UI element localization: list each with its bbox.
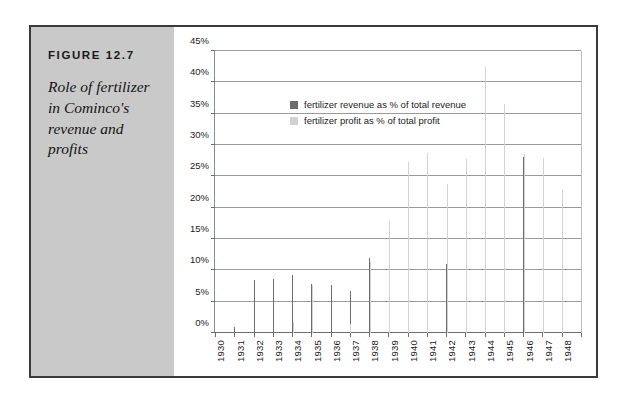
- x-axis-tick-mark: [446, 333, 447, 337]
- y-axis-tick-label: 10%: [190, 254, 209, 265]
- x-axis-tick-mark: [562, 333, 563, 337]
- x-axis-tick-mark: [581, 333, 582, 337]
- plot-area: 0%5%10%15%20%25%30%35%40%45% 19301931193…: [214, 51, 582, 333]
- x-axis-tick-label: 1933: [273, 340, 284, 362]
- x-axis-tick-label: 1947: [543, 340, 554, 362]
- legend-item-profit: fertilizer profit as % of total profit: [290, 115, 466, 126]
- x-axis-tick-mark: [427, 333, 428, 337]
- x-axis-tick-mark: [369, 333, 370, 337]
- bars-layer: 1930193119321933193419351936193719381939…: [215, 51, 581, 333]
- x-axis-tick-label: 1945: [504, 340, 515, 362]
- bar-group: 1935: [311, 51, 330, 333]
- bar-group: 1942: [446, 51, 465, 333]
- y-axis-tick-label: 25%: [190, 160, 209, 171]
- x-axis-tick-mark: [485, 333, 486, 337]
- legend-label-profit: fertilizer profit as % of total profit: [304, 115, 440, 126]
- bar-group: 1930: [215, 51, 234, 333]
- figure-screenshot: FIGURE 12.7 Role of fertilizer in Cominc…: [0, 0, 626, 403]
- x-axis-tick-label: 1936: [331, 340, 342, 362]
- bar-group: 1947: [542, 51, 561, 333]
- y-axis-tick-label: 15%: [190, 223, 209, 234]
- x-axis-tick-mark: [273, 333, 274, 337]
- x-axis-tick-mark: [234, 333, 235, 337]
- x-axis-tick-mark: [331, 333, 332, 337]
- bar-group: 1932: [254, 51, 273, 333]
- x-axis-tick-label: 1931: [235, 340, 246, 362]
- x-axis-tick-mark: [311, 333, 312, 337]
- figure-frame: FIGURE 12.7 Role of fertilizer in Cominc…: [29, 25, 598, 378]
- legend-label-revenue: fertilizer revenue as % of total revenue: [304, 99, 466, 110]
- figure-number: FIGURE 12.7: [48, 49, 160, 61]
- y-axis-tick-label: 30%: [190, 129, 209, 140]
- bar-group: 1938: [369, 51, 388, 333]
- x-axis-tick-label: 1932: [254, 340, 265, 362]
- x-axis-tick-mark: [465, 333, 466, 337]
- figure-caption-text: Role of fertilizer in Cominco's revenue …: [48, 77, 160, 160]
- x-axis-tick-mark: [408, 333, 409, 337]
- legend-swatch-profit-icon: [290, 117, 298, 125]
- x-axis-tick-mark: [388, 333, 389, 337]
- x-axis-tick-mark: [215, 333, 216, 337]
- x-axis-tick-mark: [523, 333, 524, 337]
- y-axis-tick-label: 5%: [195, 285, 209, 296]
- legend-item-revenue: fertilizer revenue as % of total revenue: [290, 99, 466, 110]
- chart-area: 0%5%10%15%20%25%30%35%40%45% 19301931193…: [174, 27, 596, 376]
- x-axis-tick-mark: [504, 333, 505, 337]
- y-axis-tick-label: 35%: [190, 97, 209, 108]
- bar-group: 1939: [388, 51, 407, 333]
- figure-caption-panel: FIGURE 12.7 Role of fertilizer in Cominc…: [31, 27, 174, 376]
- x-axis-tick-mark: [542, 333, 543, 337]
- bar-group: 1933: [273, 51, 292, 333]
- y-axis-tick-label: 45%: [190, 35, 209, 46]
- chart-legend: fertilizer revenue as % of total revenue…: [290, 99, 466, 131]
- bar-group: 1934: [292, 51, 311, 333]
- x-axis-tick-label: 1944: [485, 340, 496, 362]
- x-axis-tick-label: 1934: [292, 340, 303, 362]
- x-axis-tick-mark: [254, 333, 255, 337]
- x-axis-tick-label: 1943: [466, 340, 477, 362]
- y-axis-tick-label: 0%: [195, 317, 209, 328]
- x-axis-tick-label: 1938: [369, 340, 380, 362]
- x-axis-tick-mark: [292, 333, 293, 337]
- x-axis-tick-mark: [350, 333, 351, 337]
- bar-group: 1948: [562, 51, 581, 333]
- x-axis-tick-label: 1930: [215, 340, 226, 362]
- legend-swatch-revenue-icon: [290, 101, 298, 109]
- x-axis-tick-label: 1940: [408, 340, 419, 362]
- bar-group: 1940: [408, 51, 427, 333]
- bar-group: 1944: [485, 51, 504, 333]
- bar-group: 1946: [523, 51, 542, 333]
- y-axis-tick-label: 40%: [190, 66, 209, 77]
- bar-group: 1941: [427, 51, 446, 333]
- x-axis-tick-label: 1935: [312, 340, 323, 362]
- plot-wrapper: 0%5%10%15%20%25%30%35%40%45% 19301931193…: [214, 51, 582, 333]
- x-axis-tick-label: 1942: [446, 340, 457, 362]
- x-axis-tick-label: 1939: [389, 340, 400, 362]
- x-axis-tick-label: 1948: [562, 340, 573, 362]
- y-axis-tick-label: 20%: [190, 191, 209, 202]
- x-axis-tick-label: 1946: [524, 340, 535, 362]
- x-axis-tick-label: 1937: [350, 340, 361, 362]
- bar-group: 1936: [331, 51, 350, 333]
- bar-group: 1943: [465, 51, 484, 333]
- x-axis-tick-label: 1941: [427, 340, 438, 362]
- bar-group: 1937: [350, 51, 369, 333]
- bar-group: 1931: [234, 51, 253, 333]
- bar-group: 1945: [504, 51, 523, 333]
